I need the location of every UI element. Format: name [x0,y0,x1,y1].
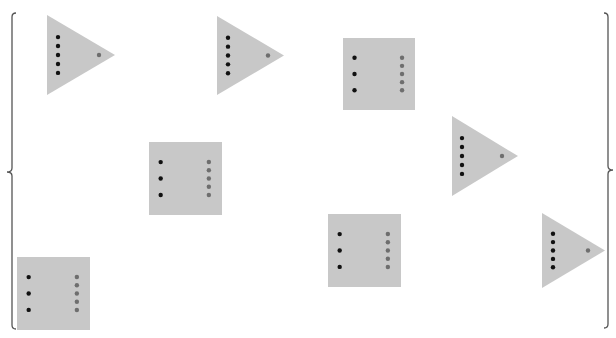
black-dot [226,36,230,40]
gray-dot [400,88,404,92]
black-dot [551,265,555,269]
black-dot [26,308,30,312]
gray-dot [266,53,270,57]
diagram-canvas [0,0,616,338]
gray-dot [207,185,211,189]
gray-dot [386,265,390,269]
gray-dot [207,193,211,197]
gray-dot [586,248,590,252]
triangle-shape [542,213,605,288]
black-dot [337,265,341,269]
black-dot [352,88,356,92]
black-dot [551,232,555,236]
square-shape [328,214,401,287]
black-dot [56,71,60,75]
triangle-shape [217,16,284,95]
black-dot [337,232,341,236]
black-dot [352,56,356,60]
black-dot [56,35,60,39]
gray-dot [386,248,390,252]
square-shape [149,142,222,215]
square-shape [17,257,90,330]
black-dot [226,71,230,75]
gray-dot [207,176,211,180]
black-dot [226,62,230,66]
black-dot [551,257,555,261]
black-dot [158,193,162,197]
black-dot [56,44,60,48]
left-brace [7,13,16,329]
right-brace [604,13,613,328]
black-dot [226,53,230,57]
gray-dot [386,240,390,244]
square-shape [343,38,415,110]
gray-dot [400,72,404,76]
gray-dot [75,308,79,312]
black-dot [337,248,341,252]
black-dot [460,172,464,176]
black-dot [26,291,30,295]
gray-dot [386,257,390,261]
black-dot [158,176,162,180]
black-dot [158,160,162,164]
gray-dot [75,300,79,304]
gray-dot [75,283,79,287]
triangle-shape [452,116,518,196]
gray-dot [207,168,211,172]
gray-dot [97,53,101,57]
gray-dot [400,64,404,68]
black-dot [551,248,555,252]
black-dot [551,240,555,244]
black-dot [56,53,60,57]
gray-dot [75,291,79,295]
black-dot [460,163,464,167]
gray-dot [207,160,211,164]
black-dot [460,136,464,140]
black-dot [56,62,60,66]
gray-dot [386,232,390,236]
black-dot [352,72,356,76]
gray-dot [75,275,79,279]
triangle-shape [47,15,115,95]
black-dot [26,275,30,279]
gray-dot [400,56,404,60]
black-dot [460,154,464,158]
gray-dot [400,80,404,84]
black-dot [226,44,230,48]
black-dot [460,145,464,149]
gray-dot [500,154,504,158]
